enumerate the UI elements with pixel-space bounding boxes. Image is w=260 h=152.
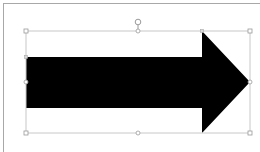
rotation-handle-icon[interactable] bbox=[135, 19, 141, 25]
resize-handle-top[interactable] bbox=[136, 29, 140, 33]
resize-handle-top-right[interactable] bbox=[248, 29, 252, 33]
resize-handle-bottom-right[interactable] bbox=[248, 131, 252, 135]
resize-handle-bottom-left[interactable] bbox=[24, 131, 28, 135]
resize-handle-left[interactable] bbox=[24, 80, 28, 84]
resize-handle-right[interactable] bbox=[248, 80, 252, 84]
arrow-head-adjust-handle[interactable] bbox=[201, 30, 204, 33]
arrow-shaft-adjust-handle[interactable] bbox=[25, 56, 28, 59]
drawing-stage bbox=[0, 0, 260, 152]
right-arrow-shape[interactable] bbox=[26, 31, 250, 133]
resize-handle-top-left[interactable] bbox=[24, 29, 28, 33]
slide-canvas[interactable] bbox=[0, 0, 260, 152]
resize-handle-bottom[interactable] bbox=[136, 131, 140, 135]
